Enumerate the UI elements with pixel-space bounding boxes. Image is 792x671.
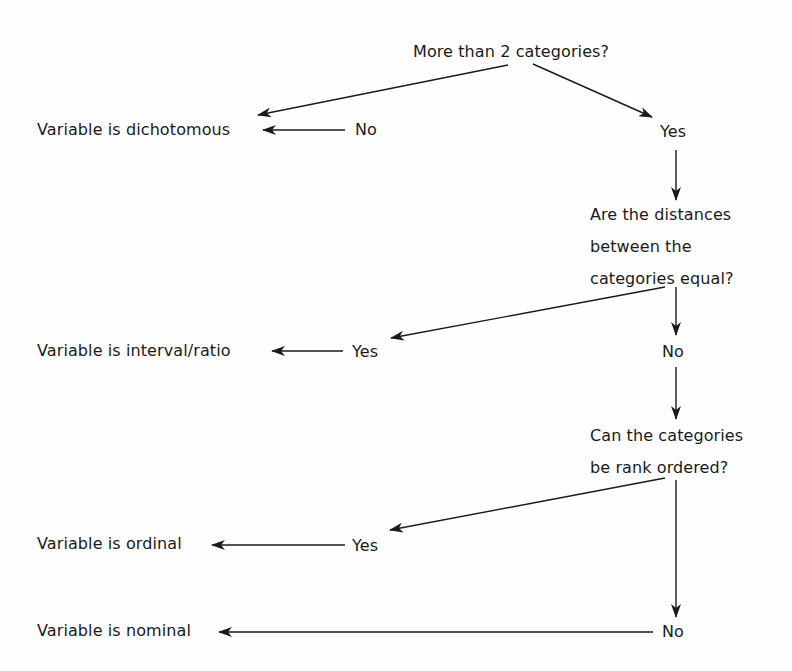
question-distances-equal: Are the distances between the categories… xyxy=(590,199,734,295)
result-label: Variable is nominal xyxy=(37,621,191,640)
answer-no-2: No xyxy=(662,336,684,368)
result-interval-ratio: Variable is interval/ratio xyxy=(37,335,231,367)
result-label: Variable is ordinal xyxy=(37,534,182,553)
question-line: categories equal? xyxy=(590,263,734,295)
question-text: More than 2 categories? xyxy=(413,42,609,61)
question-more-than-two-categories: More than 2 categories? xyxy=(413,36,609,68)
edge-q3-to-yes xyxy=(390,478,665,530)
result-dichotomous: Variable is dichotomous xyxy=(37,114,230,146)
answer-label: No xyxy=(662,622,684,641)
answer-label: Yes xyxy=(660,122,686,141)
result-label: Variable is interval/ratio xyxy=(37,341,231,360)
answer-label: No xyxy=(355,120,377,139)
result-ordinal: Variable is ordinal xyxy=(37,528,182,560)
answer-yes-3: Yes xyxy=(352,530,378,562)
flowchart-canvas: More than 2 categories? No Yes Variable … xyxy=(0,0,792,671)
edge-q1-to-yes xyxy=(533,64,652,117)
question-line: Can the categories xyxy=(590,420,743,452)
question-line: between the xyxy=(590,231,734,263)
question-line: Are the distances xyxy=(590,199,734,231)
result-nominal: Variable is nominal xyxy=(37,615,191,647)
answer-label: Yes xyxy=(352,342,378,361)
answer-no-1: No xyxy=(355,114,377,146)
answer-label: No xyxy=(662,342,684,361)
edge-q1-to-no xyxy=(258,65,508,115)
question-line: be rank ordered? xyxy=(590,452,743,484)
question-rank-ordered: Can the categories be rank ordered? xyxy=(590,420,743,484)
answer-no-3: No xyxy=(662,616,684,648)
answer-yes-1: Yes xyxy=(660,116,686,148)
result-label: Variable is dichotomous xyxy=(37,120,230,139)
answer-yes-2: Yes xyxy=(352,336,378,368)
answer-label: Yes xyxy=(352,536,378,555)
